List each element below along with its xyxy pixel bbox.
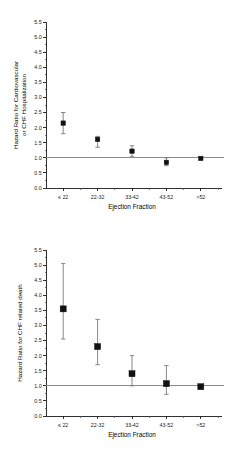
x-axis-tick-label: >52 [196,422,205,428]
data-point-marker [61,121,65,125]
x-axis-tick-label: 33-42 [125,422,139,428]
y-axis-tick-label: 4.5 [34,49,42,55]
data-point-marker [95,137,99,141]
y-axis-title-line: Hazard Ratio for Cardiovascular [12,61,19,149]
y-axis-tick-label: 2.5 [34,109,42,115]
y-axis-tick-label: 1.0 [34,155,42,161]
y-axis-tick-label: 1.0 [34,383,42,389]
x-axis-tick-label: >52 [196,194,205,200]
x-axis-tick-label: 43-52 [160,422,174,428]
data-point-marker [60,306,66,312]
data-point-marker [163,381,169,387]
hazard-ratio-chf-death-chart: 0.00.51.01.52.02.53.03.54.04.55.05.5≤ 22… [0,230,237,457]
x-axis-tick-label: 43-52 [160,194,174,200]
y-axis-tick-label: 5.5 [34,19,42,25]
y-axis-tick-label: 3.0 [34,94,42,100]
x-axis-title: Ejection Fraction [108,431,156,439]
x-axis-tick-label: 22-32 [91,194,105,200]
x-axis-title: Ejection Fraction [108,203,156,211]
figure-container: 0.00.51.01.52.02.53.03.54.04.55.05.5≤ 22… [0,0,237,457]
y-axis-tick-label: 5.0 [34,262,42,268]
data-point-marker [129,371,135,377]
data-point-marker [198,384,204,390]
y-axis-tick-label: 4.0 [34,64,42,70]
data-point-marker [130,149,134,153]
y-axis-title: Hazard Ratio for CHF related death [16,284,23,382]
data-point-marker [164,160,168,164]
y-axis-tick-label: 2.5 [34,337,42,343]
y-axis-tick-label: 0.5 [34,398,42,404]
chart-panel-top: 0.00.51.01.52.02.53.03.54.04.55.05.5≤ 22… [0,0,237,230]
chart-panel-bottom: 0.00.51.01.52.02.53.03.54.04.55.05.5≤ 22… [0,230,237,457]
y-axis-tick-label: 4.5 [34,277,42,283]
y-axis-tick-label: 3.5 [34,79,42,85]
y-axis-tick-label: 2.0 [34,125,42,131]
x-axis-tick-label: ≤ 22 [58,194,68,200]
x-axis-tick-label: ≤ 22 [58,422,68,428]
data-point-marker [95,344,101,350]
y-axis-tick-label: 2.0 [34,353,42,359]
y-axis-tick-label: 0.5 [34,170,42,176]
y-axis-tick-label: 0.0 [34,413,42,419]
y-axis-tick-label: 3.0 [34,322,42,328]
x-axis-tick-label: 22-32 [91,422,105,428]
y-axis-tick-label: 0.0 [34,185,42,191]
y-axis-title: Hazard Ratio for Cardiovascularor CHF Ho… [12,61,26,149]
y-axis-tick-label: 1.5 [34,140,42,146]
data-point-marker [199,156,203,160]
x-axis-tick-label: 33-42 [125,194,139,200]
y-axis-title-line: Hazard Ratio for CHF related death [16,284,23,382]
hazard-ratio-hospitalization-chart: 0.00.51.01.52.02.53.03.54.04.55.05.5≤ 22… [0,0,237,230]
y-axis-tick-label: 5.0 [34,34,42,40]
y-axis-tick-label: 3.5 [34,307,42,313]
y-axis-tick-label: 1.5 [34,368,42,374]
y-axis-tick-label: 4.0 [34,292,42,298]
y-axis-title-line: or CHF Hospitalization [20,73,27,135]
y-axis-tick-label: 5.5 [34,247,42,253]
